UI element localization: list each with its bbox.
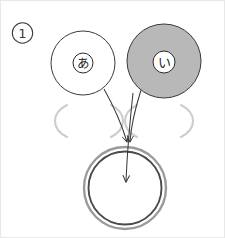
ghost-arc-left-close bbox=[111, 105, 123, 137]
node-i-label: い bbox=[158, 55, 171, 70]
ghost-arc-left-open bbox=[55, 105, 67, 137]
figure-canvas: 1 あ い bbox=[0, 0, 225, 238]
placeholder-slot-left bbox=[55, 105, 123, 137]
node-i-circle[interactable]: い bbox=[127, 24, 201, 98]
diagram-svg: 1 あ い bbox=[1, 1, 225, 238]
ghost-arc-right-close bbox=[181, 105, 193, 137]
step-number-label: 1 bbox=[18, 26, 26, 41]
node-a-circle[interactable]: あ bbox=[51, 31, 115, 95]
circled-number-one-icon: 1 bbox=[12, 23, 32, 43]
node-a-label: あ bbox=[77, 56, 90, 71]
target-ring-outer bbox=[84, 147, 166, 229]
target-ring-circle[interactable] bbox=[84, 147, 166, 229]
